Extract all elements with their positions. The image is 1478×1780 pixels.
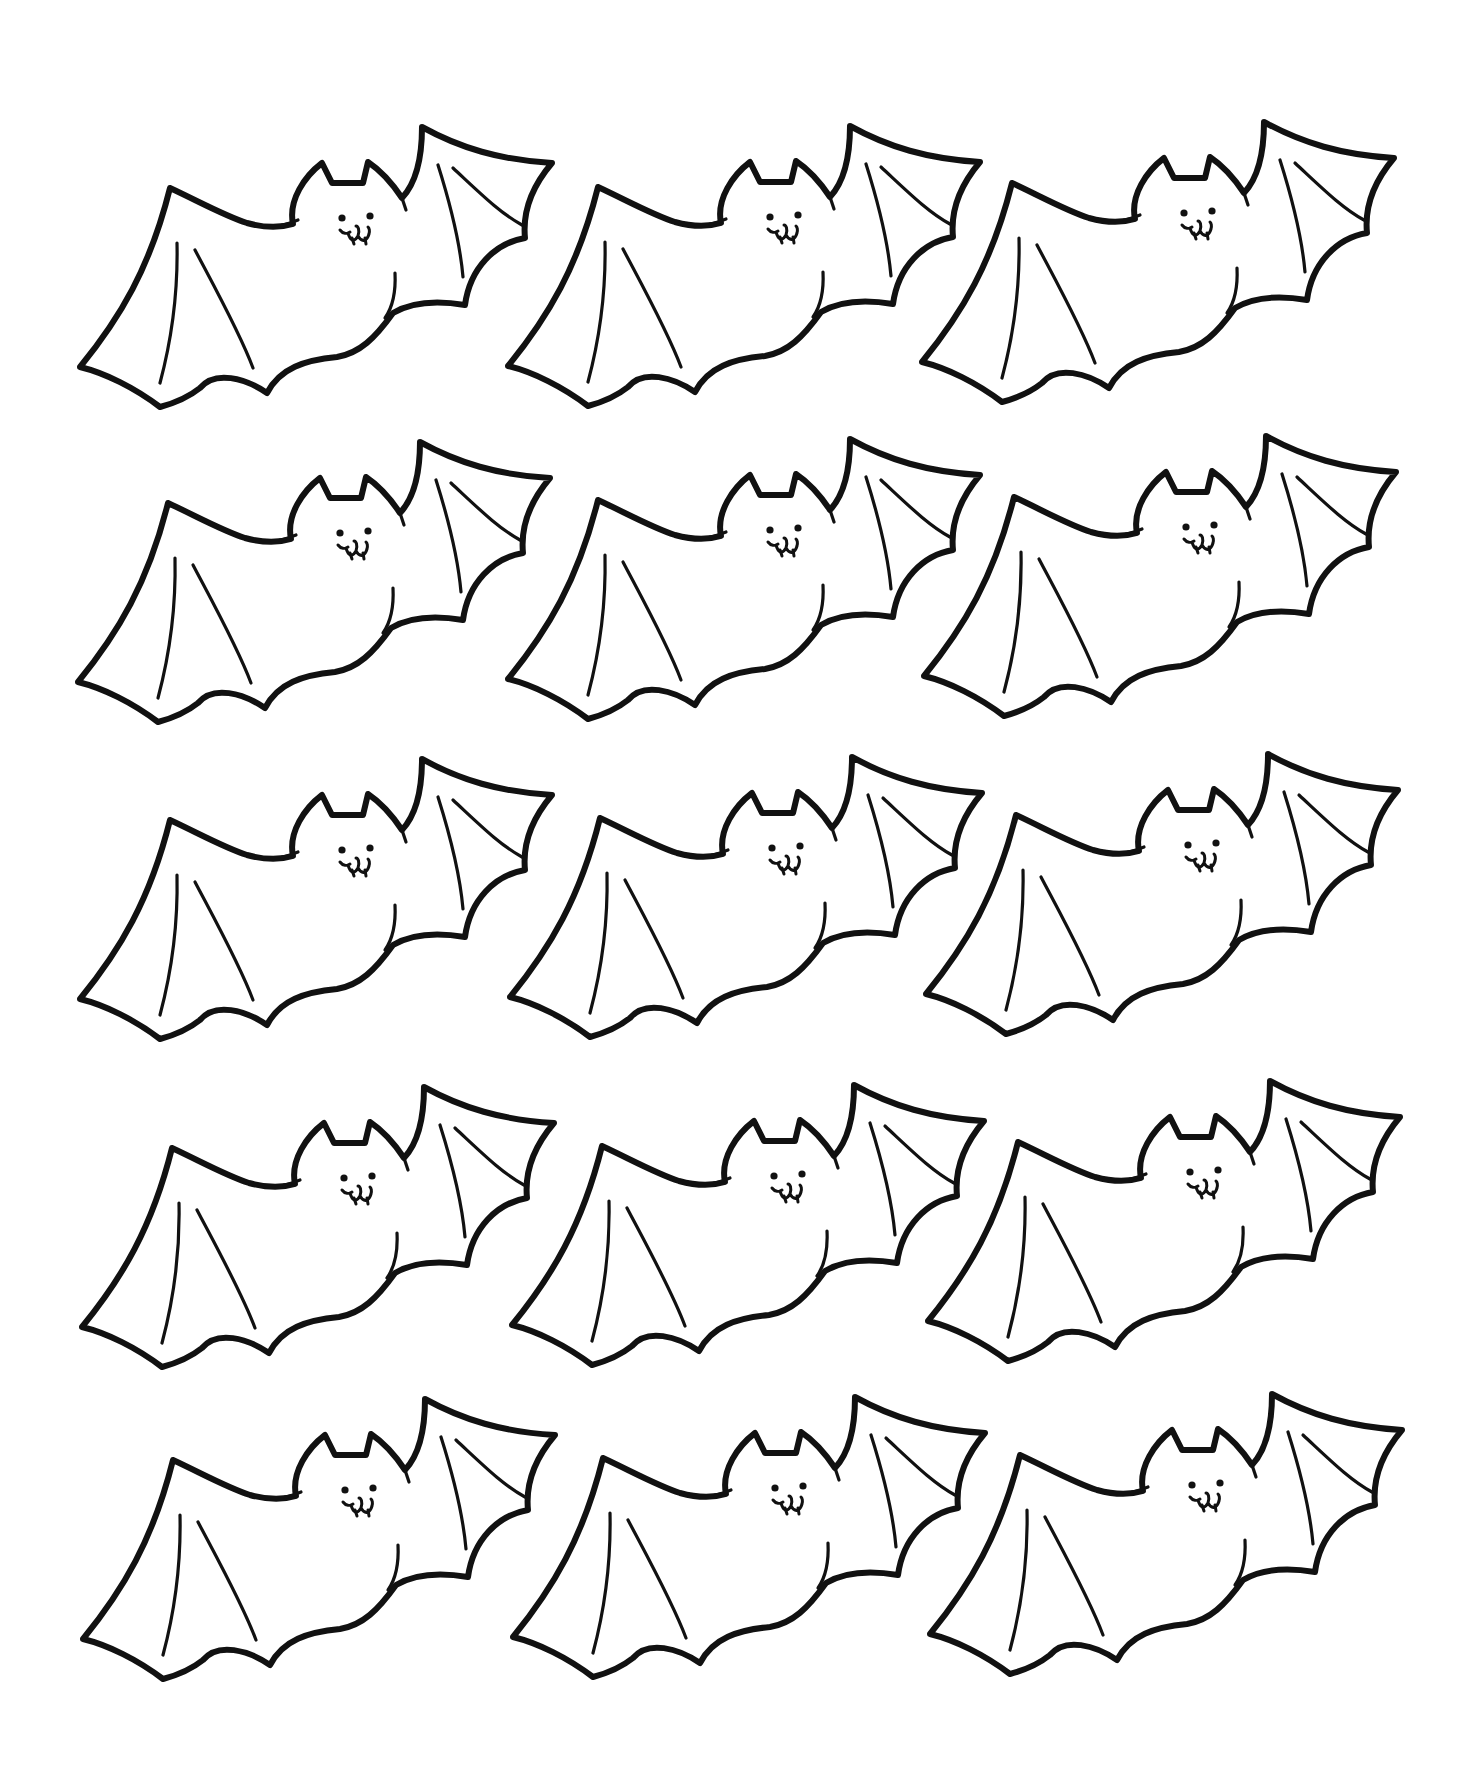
bat-icon xyxy=(510,757,982,1037)
bat-icon xyxy=(80,759,552,1039)
bat-row-1 xyxy=(80,122,1394,407)
bat-icon xyxy=(513,1397,985,1677)
bat-coloring-sheet xyxy=(0,0,1478,1780)
bat-icon xyxy=(928,1081,1400,1361)
bat-row-2 xyxy=(78,436,1396,722)
bat-row-4 xyxy=(82,1081,1400,1367)
bat-icon xyxy=(926,754,1398,1034)
bat-row-3 xyxy=(80,754,1398,1039)
bat-icon xyxy=(930,1394,1402,1674)
bat-icon xyxy=(508,126,980,406)
bat-icon xyxy=(78,442,550,722)
bat-icon xyxy=(512,1085,984,1365)
bat-icon xyxy=(82,1087,554,1367)
bat-icon xyxy=(80,127,552,407)
bat-icon xyxy=(922,122,1394,402)
bat-icon xyxy=(508,439,980,719)
bat-icon xyxy=(83,1399,555,1679)
bat-row-5 xyxy=(83,1394,1402,1679)
bat-icon xyxy=(924,436,1396,716)
